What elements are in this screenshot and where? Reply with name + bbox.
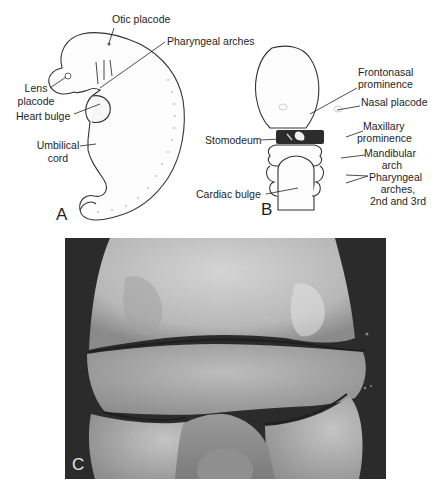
panel-c-sem-micrograph	[65, 238, 386, 479]
panel-letter-b: B	[261, 200, 272, 220]
label-frontonasal-line1: Frontonasal	[358, 67, 413, 78]
panel-letter-c: C	[72, 455, 84, 475]
label-pharyngeal-line1: Pharyngeal	[369, 172, 422, 183]
label-otic-placode: Otic placode	[112, 14, 170, 25]
label-mandibular-line2: arch	[364, 160, 420, 171]
label-umbilical-cord-line1: Umbilical	[34, 140, 82, 151]
label-heart-bulge: Heart bulge	[16, 111, 70, 122]
label-pharyngeal-line2: arches,	[366, 184, 430, 195]
label-cardiac-bulge: Cardiac bulge	[196, 189, 261, 200]
label-mandibular-line1: Mandibular	[364, 148, 416, 159]
label-pharyngeal-arches: Pharyngeal arches	[167, 36, 255, 47]
label-maxillary-line2: prominence	[357, 133, 412, 144]
label-stomodeum: Stomodeum	[205, 135, 262, 146]
panel-letter-a: A	[56, 205, 67, 225]
label-pharyngeal-line3: 2nd and 3rd	[366, 196, 430, 207]
label-umbilical-cord-line2: cord	[34, 153, 82, 164]
embryo-figure: Otic placode Pharyngeal arches Lens plac…	[0, 0, 442, 489]
label-maxillary-line1: Maxillary	[363, 121, 404, 132]
sem-face-image	[65, 238, 386, 479]
label-lens-placode-line1: Lens	[16, 83, 56, 94]
label-lens-placode-line2: placode	[16, 96, 56, 107]
label-frontonasal-line2: prominence	[358, 79, 413, 90]
label-nasal-placode: Nasal placode	[361, 97, 428, 108]
